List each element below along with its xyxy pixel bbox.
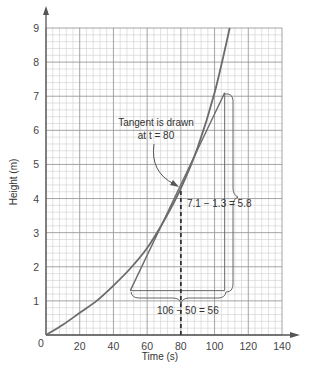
y-tick-label: 3 bbox=[33, 227, 39, 239]
annotation-arrowhead-icon bbox=[170, 180, 179, 187]
x-axis-arrow-icon bbox=[290, 332, 300, 338]
run-annotation: 106 − 50 = 56 bbox=[157, 305, 219, 316]
y-tick-label: 1 bbox=[33, 295, 39, 307]
tangent-annotation-line2: at t = 80 bbox=[138, 130, 175, 141]
y-axis-arrow-icon bbox=[43, 6, 49, 15]
y-tick-labels: 123456789 bbox=[33, 22, 39, 307]
y-tick-label: 4 bbox=[33, 193, 39, 205]
x-axis-label: Time (s) bbox=[142, 351, 178, 362]
y-tick-label: 8 bbox=[33, 56, 39, 68]
x-tick-label: 100 bbox=[206, 340, 224, 352]
x-tick-label: 120 bbox=[240, 340, 258, 352]
rise-annotation: 7.1 − 1.3 = 5.8 bbox=[187, 198, 252, 209]
origin-label: 0 bbox=[38, 337, 44, 349]
tangent-annotation-line1: Tangent is drawn bbox=[118, 117, 194, 128]
y-tick-label: 5 bbox=[33, 158, 39, 170]
y-tick-label: 6 bbox=[33, 124, 39, 136]
y-tick-label: 7 bbox=[33, 90, 39, 102]
y-tick-label: 9 bbox=[33, 22, 39, 34]
x-tick-label: 40 bbox=[108, 340, 120, 352]
height-curve bbox=[46, 28, 230, 335]
major-gridlines bbox=[46, 28, 282, 335]
y-tick-label: 2 bbox=[33, 261, 39, 273]
x-tick-label: 20 bbox=[74, 340, 86, 352]
tangent-gradient-chart: 123456789 20406080100120140 0 Time (s) H… bbox=[0, 0, 314, 384]
minor-gridlines bbox=[46, 28, 282, 335]
x-tick-label: 140 bbox=[273, 340, 291, 352]
y-axis-label: Height (m) bbox=[8, 159, 19, 206]
x-tick-labels: 20406080100120140 bbox=[74, 340, 291, 352]
